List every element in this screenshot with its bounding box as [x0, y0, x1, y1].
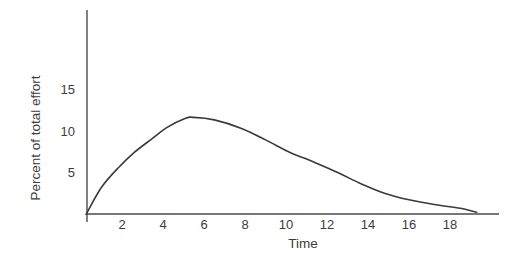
effort-curve	[86, 117, 477, 214]
y-tick-label: 15	[61, 82, 75, 97]
axes	[86, 10, 499, 222]
x-tick-label: 4	[159, 217, 166, 232]
x-tick-label: 16	[402, 217, 416, 232]
x-tick-label: 14	[361, 217, 375, 232]
y-tick-label: 5	[68, 165, 75, 180]
y-tick-labels: 51015	[61, 82, 75, 180]
x-tick-labels: 24681012141618	[118, 217, 457, 232]
x-tick-label: 18	[443, 217, 457, 232]
y-tick-label: 10	[61, 124, 75, 139]
line-chart: 24681012141618 51015 Time Percent of tot…	[0, 0, 528, 268]
x-axis-title: Time	[288, 236, 318, 251]
x-tick-label: 2	[118, 217, 125, 232]
x-tick-label: 8	[241, 217, 248, 232]
y-axis-title: Percent of total effort	[28, 75, 43, 200]
x-tick-label: 12	[320, 217, 334, 232]
x-tick-label: 10	[279, 217, 293, 232]
x-tick-label: 6	[200, 217, 207, 232]
